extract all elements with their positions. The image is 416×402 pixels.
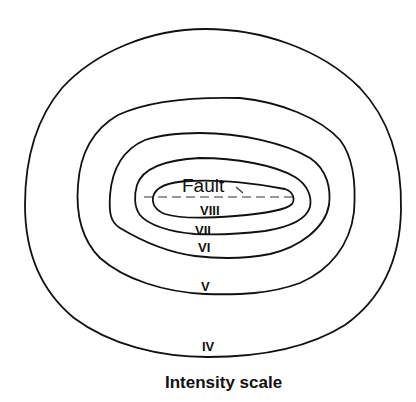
intensity-label-vii: VII [195, 223, 211, 238]
fault-label: Fault [182, 175, 225, 196]
isoseismal-contour-vii [135, 158, 310, 234]
intensity-label-v: V [201, 279, 210, 294]
intensity-label-vi: VI [198, 240, 210, 255]
fault-pointer-arrow [236, 187, 243, 193]
isoseismal-contour-v [78, 98, 355, 294]
intensity-label-viii: VIII [200, 203, 220, 218]
diagram-caption: Intensity scale [165, 373, 282, 392]
intensity-label-iv: IV [202, 339, 215, 354]
isoseismal-map: Fault VIII VII VI V IV Intensity scale [0, 0, 416, 402]
